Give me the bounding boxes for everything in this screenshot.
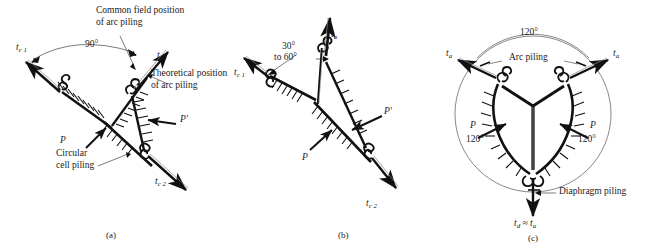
label-angle-left-120: 120° bbox=[466, 134, 484, 146]
label-P-b: P bbox=[302, 152, 308, 164]
lower-wall-hatching bbox=[102, 124, 133, 155]
label-P-prime-b: P' bbox=[384, 106, 392, 118]
label-P-right-c: P bbox=[590, 120, 596, 132]
label-td-approx-ta: td ≈ ta bbox=[514, 218, 536, 233]
label-ta: ta bbox=[157, 50, 163, 65]
label-theoretical-position: Theoretical position of arc piling bbox=[151, 68, 227, 91]
panel-c: 120° 120° 120° Arc piling Diaphragm pili… bbox=[420, 0, 646, 251]
right-cell-wall bbox=[132, 96, 144, 150]
arrow-tc2 bbox=[148, 156, 186, 190]
label-tc1: tc 1 bbox=[16, 42, 27, 57]
arrow-P-b bbox=[310, 130, 332, 150]
panel-b: 30° to 60° tc 1 tc 2 ta P P' (b) bbox=[230, 0, 420, 251]
label-angle-30-line1: 30° bbox=[282, 41, 295, 53]
label-P-prime: P' bbox=[180, 114, 188, 126]
label-tc1-b: tc 1 bbox=[234, 67, 245, 82]
label-angle-right-120: 120° bbox=[578, 134, 596, 146]
leader-circular-cell bbox=[98, 154, 128, 166]
caption-b: (b) bbox=[338, 230, 349, 240]
arrow-P-prime bbox=[148, 120, 176, 124]
caption-a: (a) bbox=[106, 230, 116, 240]
panel-b-graphics bbox=[230, 0, 420, 251]
arrow-tc2-b bbox=[372, 158, 396, 188]
label-diaphragm-piling: Diaphragm piling bbox=[559, 186, 626, 198]
label-angle-top-120: 120° bbox=[520, 27, 538, 39]
angle-arc-90 bbox=[34, 44, 133, 59]
arc-piling-wall-b bbox=[318, 48, 322, 104]
arrow-tc1-b bbox=[244, 58, 270, 78]
label-common-field-position: Common field position of arc piling bbox=[96, 5, 184, 28]
label-circular-cell-piling: Circular cell piling bbox=[56, 148, 94, 171]
y-arm-right bbox=[533, 86, 564, 106]
arrow-tc1 bbox=[26, 62, 60, 92]
caption-c: (c) bbox=[528, 233, 538, 243]
arrow-ta-left bbox=[458, 60, 496, 78]
label-arc-piling: Arc piling bbox=[509, 52, 548, 64]
y-arm-left bbox=[502, 86, 533, 106]
leader-common-field bbox=[120, 36, 134, 66]
label-ta-left-c: ta bbox=[446, 48, 452, 63]
left-wall-hatching bbox=[58, 82, 104, 118]
label-ta-b: ta bbox=[331, 29, 337, 44]
panel-a: Common field position of arc piling Theo… bbox=[0, 0, 230, 251]
arrow-P bbox=[86, 128, 106, 148]
label-tc2: tc 2 bbox=[155, 176, 166, 191]
label-P-left-c: P bbox=[470, 120, 476, 132]
label-ta-right-c: ta bbox=[613, 48, 619, 63]
arrow-ta-right bbox=[570, 60, 608, 78]
label-angle-90: 90° bbox=[85, 39, 98, 51]
figure-canvas: Common field position of arc piling Theo… bbox=[0, 0, 646, 251]
label-P: P bbox=[60, 135, 66, 147]
label-angle-to-60-line2: to 60° bbox=[274, 52, 297, 64]
right-arc-wall bbox=[536, 84, 573, 174]
label-tc2-b: tc 2 bbox=[366, 198, 377, 213]
panel-a-graphics bbox=[0, 0, 230, 251]
left-arc-wall bbox=[493, 84, 530, 174]
